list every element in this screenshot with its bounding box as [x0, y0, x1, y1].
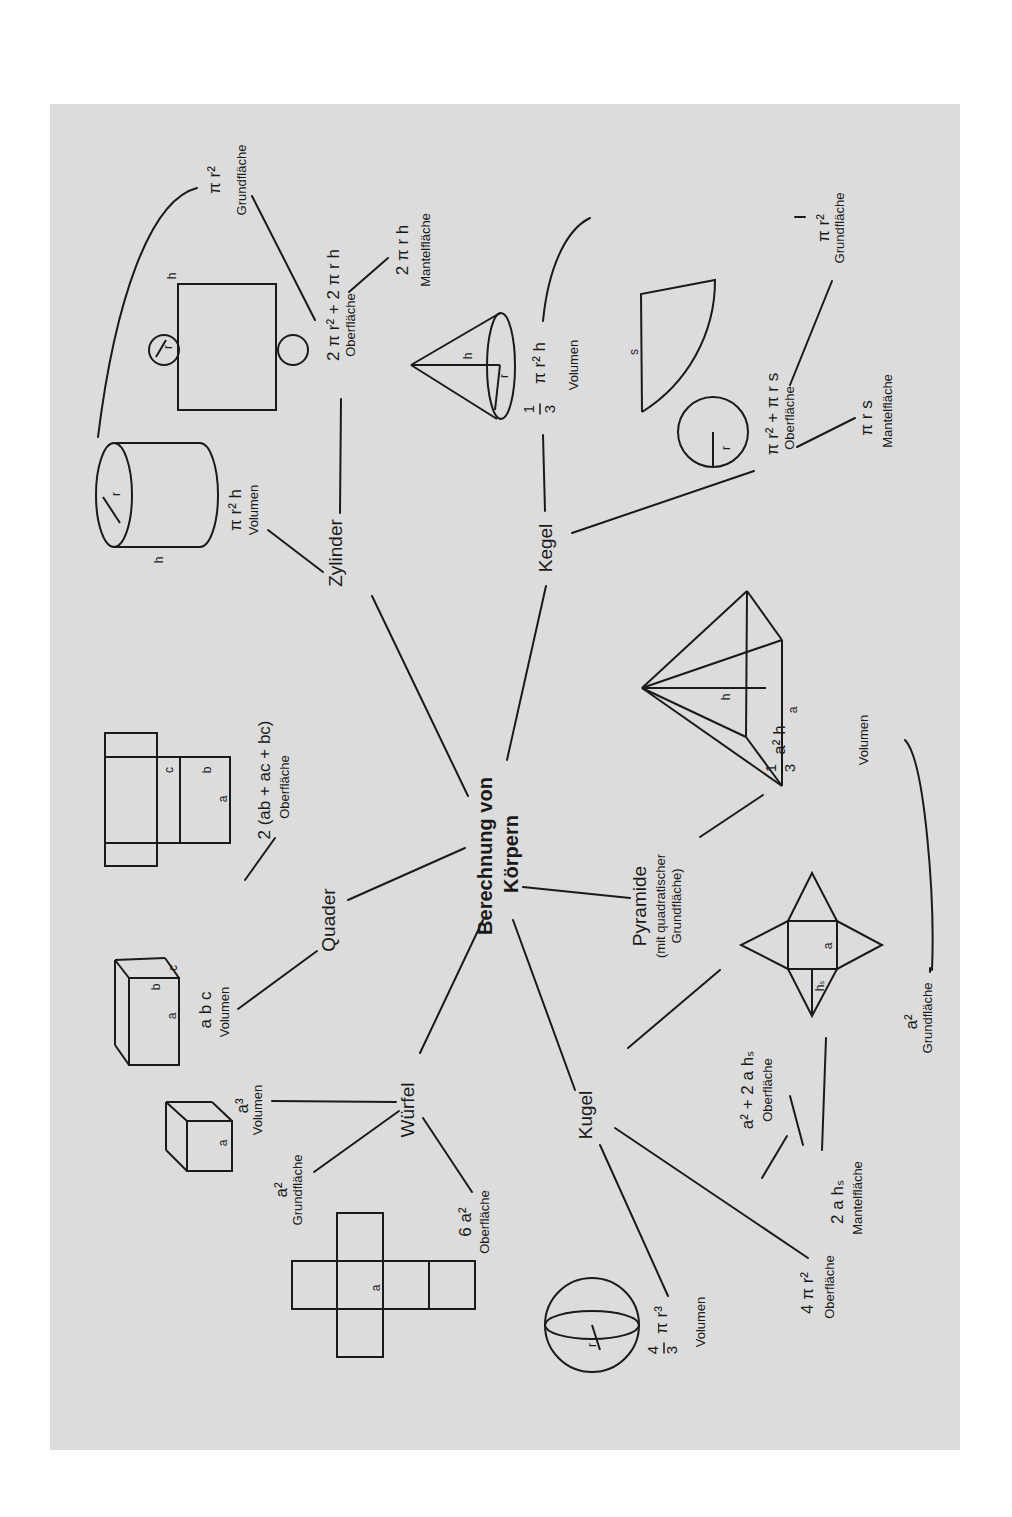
cuboid-c-label: c [166, 965, 180, 971]
wuerfel-volume-caption: Volumen [250, 1085, 265, 1136]
edge-zylinder-surface [340, 399, 341, 513]
zylinder-base-caption: Grundfläche [234, 145, 249, 216]
pyramide-volume-formula: a² h [770, 725, 789, 754]
zylinder-base-formula: π r² [205, 166, 224, 194]
pyramide-sublabel-2: Grundfläche) [669, 868, 684, 943]
pyramide-surface-caption: Oberfläche [760, 1058, 775, 1122]
zylinder-lateral-caption: Mantelfläche [418, 213, 433, 287]
pyramid-height-label: h [719, 694, 733, 701]
pyramide-surface-formula: a² + 2 a hₛ [738, 1051, 757, 1129]
node-pyramide[interactable]: Pyramide [629, 866, 650, 946]
edge-wuerfel-volume [272, 1101, 396, 1102]
zylinder-surface-formula: 2 π r² + 2 π r h [324, 249, 343, 361]
sphere-radius-label: r [585, 1343, 599, 1347]
pyramide-lateral-formula: 2 a hₛ [828, 1180, 847, 1224]
cylinder-height-label: h [152, 557, 166, 564]
cone-radius-label: r [497, 374, 511, 378]
kegel-volume-caption: Volumen [566, 340, 581, 391]
cuboid-net-b-label: b [200, 766, 214, 773]
zylinder-volume-formula: π r² h [226, 489, 245, 531]
kegel-surface-formula: π r² + π r s [763, 373, 782, 456]
cuboid-b-label: b [149, 983, 163, 990]
kugel-surface-formula: 4 π r² [798, 1272, 817, 1314]
cuboid-a-label: a [165, 1012, 179, 1019]
cube-a-label: a [216, 1139, 230, 1146]
mind-map-diagram: r h r h h r s r c b a [0, 0, 1012, 1517]
wuerfel-base-caption: Grundfläche [290, 1155, 305, 1226]
node-kugel[interactable]: Kugel [575, 1091, 596, 1140]
kegel-volume-formula: π r² h [530, 342, 549, 384]
kugel-volume-numerator: 4 [644, 1346, 661, 1354]
kegel-lateral-formula: π r s [857, 400, 876, 435]
kegel-volume-denominator: 3 [541, 405, 558, 413]
wuerfel-base-formula: a² [272, 1182, 291, 1197]
kegel-volume-numerator: 1 [520, 405, 537, 413]
quader-volume-formula: a b c [196, 991, 215, 1028]
node-quader[interactable]: Quader [318, 888, 339, 952]
zylinder-lateral-formula: 2 π r h [393, 225, 412, 275]
kegel-surface-caption: Oberfläche [782, 386, 797, 450]
cuboid-net-a-label: a [216, 795, 230, 802]
zylinder-volume-caption: Volumen [246, 485, 261, 536]
pyramide-base-caption: Grundfläche [920, 983, 935, 1054]
pyramide-volume-caption: Volumen [856, 715, 871, 766]
pyramid-net-a-label: a [821, 942, 835, 949]
kugel-volume-caption: Volumen [693, 1297, 708, 1348]
kugel-volume-formula: π r³ [652, 1306, 671, 1334]
cylinder-net-radius-label: r [161, 345, 175, 349]
node-kegel[interactable]: Kegel [535, 524, 556, 573]
background-panel [50, 104, 960, 1450]
title-line1: Berechnung von [474, 777, 496, 935]
pyramid-net-hs-label: hₛ [813, 981, 827, 992]
cone-net-radius-label: r [719, 446, 733, 450]
quader-surface-caption: Oberfläche [277, 755, 292, 819]
node-wuerfel[interactable]: Würfel [397, 1083, 418, 1138]
kugel-volume-denominator: 3 [663, 1346, 680, 1354]
cone-net-slant-label: s [627, 349, 641, 355]
node-zylinder[interactable]: Zylinder [325, 519, 346, 587]
kegel-lateral-caption: Mantelfläche [880, 374, 895, 448]
kegel-base-formula: π r² [814, 214, 833, 242]
title-line2: Körpern [500, 815, 522, 893]
quader-surface-formula: 2 (ab + ac + bc) [255, 720, 274, 839]
pyramide-base-formula: a² [902, 1014, 921, 1029]
cylinder-net-height-label: h [165, 273, 179, 280]
cone-height-label: h [461, 353, 475, 360]
wuerfel-surface-caption: Oberfläche [477, 1190, 492, 1254]
pyramide-volume-numerator: 1 [762, 764, 779, 772]
kegel-base-caption: Grundfläche [832, 193, 847, 264]
pyramide-sublabel-1: (mit quadratischer [653, 853, 668, 958]
kugel-surface-caption: Oberfläche [822, 1255, 837, 1319]
cube-net-a-label: a [369, 1284, 383, 1291]
pyramid-a-label: a [786, 706, 800, 713]
zylinder-surface-caption: Oberfläche [343, 293, 358, 357]
pyramide-lateral-caption: Mantelfläche [850, 1161, 865, 1235]
wuerfel-surface-formula: 6 a² [456, 1207, 475, 1237]
pyramide-volume-denominator: 3 [781, 764, 798, 772]
cuboid-net-c-label: c [162, 767, 176, 773]
quader-volume-caption: Volumen [217, 987, 232, 1038]
cylinder-radius-label: r [109, 492, 123, 496]
